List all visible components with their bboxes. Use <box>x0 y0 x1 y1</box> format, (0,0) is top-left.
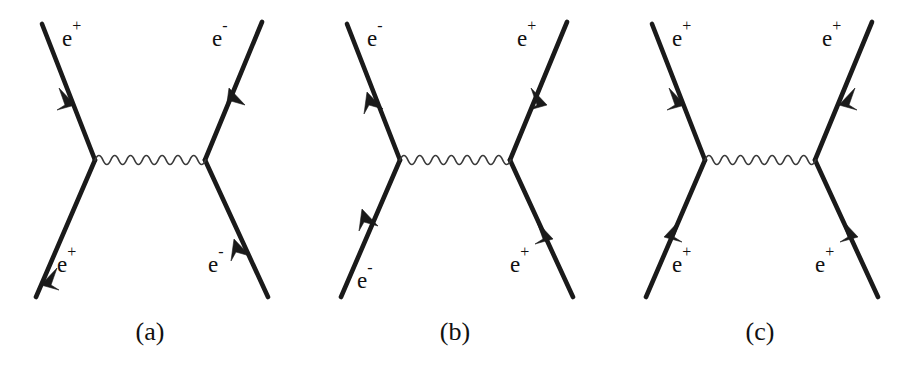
diagram-panel-a: e+ e+ e- e- (a) <box>0 0 304 376</box>
fermion-legs-b <box>341 22 573 297</box>
panel-caption-b: (b) <box>440 317 470 346</box>
feynman-figure: e+ e+ e- e- (a) <box>0 0 914 376</box>
leg-bottom-left <box>341 160 400 297</box>
diagram-panel-b: e- e- e+ e+ (b) <box>305 0 609 376</box>
panel-caption-c: (c) <box>746 317 775 346</box>
label-bottom-right: e- <box>208 243 224 278</box>
label-top-right: e+ <box>517 17 536 52</box>
photon-propagator <box>705 156 816 165</box>
label-bottom-left: e+ <box>672 243 691 278</box>
diagram-panel-c: e+ e+ e+ e+ (c) <box>610 0 914 376</box>
label-top-right: e- <box>212 17 228 52</box>
label-top-right: e+ <box>822 17 841 52</box>
label-bottom-left: e+ <box>57 243 76 278</box>
label-bottom-right: e+ <box>510 243 529 278</box>
label-top-left: e- <box>367 17 383 52</box>
photon-propagator <box>95 156 206 165</box>
label-bottom-right: e+ <box>815 243 834 278</box>
photon-propagator <box>400 156 511 165</box>
label-top-left: e+ <box>62 17 81 52</box>
panel-caption-a: (a) <box>136 317 165 346</box>
label-bottom-left: e- <box>357 259 373 294</box>
label-top-left: e+ <box>672 17 691 52</box>
